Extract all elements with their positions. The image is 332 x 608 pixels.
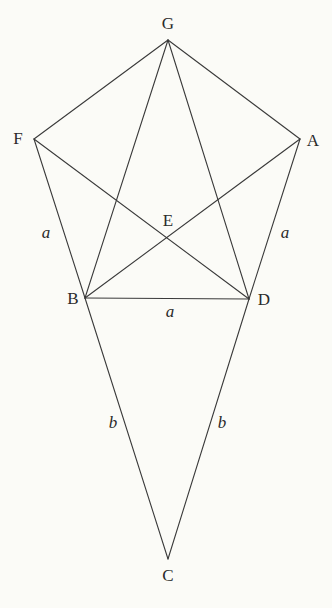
side-labels-group: aaabb <box>42 223 290 432</box>
edge-gf <box>34 40 168 139</box>
edge-ab <box>85 139 300 298</box>
vertex-label-e: E <box>163 211 173 230</box>
edge-gd <box>168 40 249 299</box>
edge-bd <box>85 298 249 299</box>
side-label-bd: a <box>166 302 175 321</box>
side-label-fb: a <box>42 223 51 242</box>
vertex-label-f: F <box>13 129 22 148</box>
side-label-dc: b <box>218 413 227 432</box>
vertex-label-a: A <box>307 131 320 150</box>
side-label-bc: b <box>109 413 118 432</box>
vertex-label-g: G <box>162 14 174 33</box>
edge-fd <box>34 139 249 299</box>
edge-ga <box>168 40 300 139</box>
edge-ad <box>249 139 300 299</box>
vertex-label-d: D <box>258 290 270 309</box>
side-label-ad: a <box>281 223 290 242</box>
vertex-label-b: B <box>67 289 78 308</box>
geometry-diagram: GFAEBDC aaabb <box>0 0 332 608</box>
vertex-labels-group: GFAEBDC <box>13 14 320 585</box>
edge-fb <box>34 139 85 298</box>
edge-bc <box>85 298 168 559</box>
vertex-label-c: C <box>162 566 173 585</box>
edge-gb <box>85 40 168 298</box>
edge-dc <box>168 299 249 559</box>
